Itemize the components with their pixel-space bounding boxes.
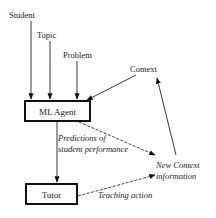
arrow-new-context-to-context (157, 78, 176, 155)
edge-label-predictions-line2: student performance (58, 144, 128, 154)
output-label-new-context-line1: New Context (155, 160, 200, 170)
input-label-topic: Topic (37, 30, 56, 40)
input-label-student: Student (9, 10, 36, 20)
edge-label-teaching-action: Teaching action (98, 190, 152, 200)
input-label-context: Context (130, 64, 158, 74)
output-label-new-context-line2: information (156, 171, 196, 181)
node-ml-agent-label: ML Agent (39, 107, 76, 117)
edge-label-predictions-line1: Predictions of (57, 133, 107, 143)
input-label-problem: Problem (63, 50, 92, 60)
node-tutor: Tutor (26, 184, 77, 204)
ml-agent-diagram: Student Topic Problem Context ML Agent P… (0, 0, 216, 218)
node-tutor-label: Tutor (42, 190, 62, 200)
arrow-context-to-ml-agent (87, 75, 136, 100)
node-ml-agent: ML Agent (25, 101, 90, 121)
